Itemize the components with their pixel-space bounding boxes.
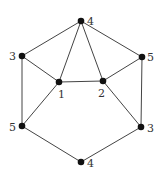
edge-top-center-left: [59, 21, 81, 82]
node-left-upper: [19, 53, 26, 60]
node-right-lower: [138, 124, 145, 131]
node-label-bottom: 4: [87, 157, 94, 170]
graph-diagram: 43512534: [0, 0, 162, 177]
edge-top-left-upper: [22, 21, 81, 56]
node-left-lower: [19, 123, 26, 130]
edge-right-upper-center-right: [103, 57, 142, 81]
node-label-center-right: 2: [98, 87, 105, 100]
node-bottom: [78, 159, 85, 166]
node-label-left-upper: 3: [9, 50, 16, 63]
node-top: [78, 18, 85, 25]
node-label-center-left: 1: [58, 88, 65, 101]
edge-left-upper-center-left: [22, 56, 59, 82]
graph-svg: 43512534: [0, 0, 162, 177]
edge-center-left-left-lower: [22, 82, 59, 126]
edge-center-right-right-lower: [103, 81, 141, 127]
node-label-right-upper: 5: [147, 51, 154, 64]
node-label-right-lower: 3: [147, 122, 154, 135]
node-center-right: [100, 78, 107, 85]
edge-right-upper-right-lower: [141, 57, 142, 127]
node-label-left-lower: 5: [9, 121, 16, 134]
node-label-top: 4: [87, 15, 94, 28]
edge-center-left-center-right: [59, 81, 103, 82]
edge-left-lower-bottom: [22, 126, 81, 162]
edge-top-center-right: [81, 21, 103, 81]
node-right-upper: [139, 54, 146, 61]
node-center-left: [56, 79, 63, 86]
